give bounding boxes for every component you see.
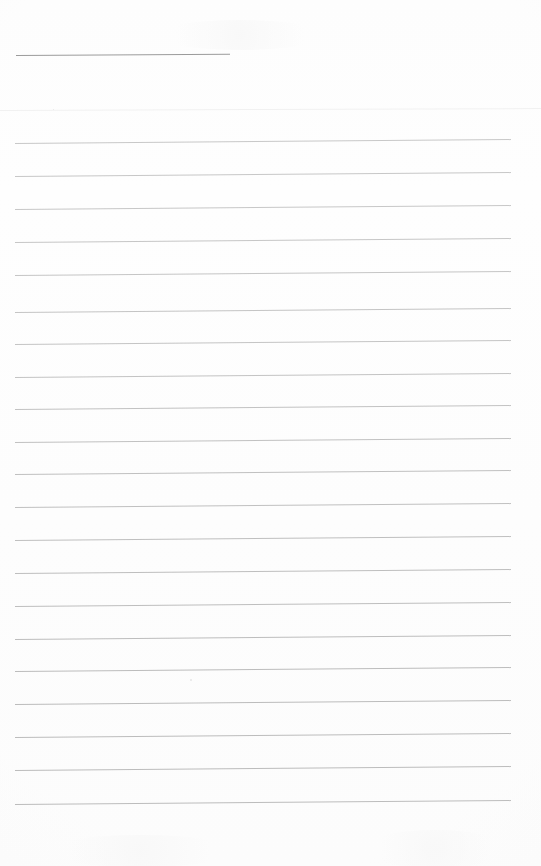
scan-blotch: [150, 20, 330, 50]
writing-area[interactable]: [15, 130, 511, 820]
faint-divider-rule: [0, 108, 541, 111]
scan-blotch: [360, 830, 510, 866]
scanned-page: [0, 0, 541, 866]
scan-blotch: [40, 835, 240, 866]
heading-underline-rule: [16, 54, 230, 56]
